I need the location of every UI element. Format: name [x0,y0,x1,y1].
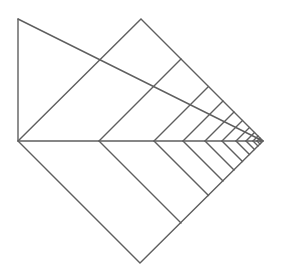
diagram-canvas [0,0,281,274]
chevron-upper-line [183,101,223,141]
chevron-lower-line [154,141,209,196]
converging-diamond-diagram [0,0,281,274]
chevron-upper-line [205,112,234,141]
chevron-upper-line [99,59,181,141]
outline-group [18,19,263,263]
chevron-lower-line [246,141,255,150]
chevron-lower-line [99,141,181,223]
chevron-lower-line [205,141,234,170]
diagonal-line [18,19,263,141]
chevron-upper-line [154,87,209,142]
chevron-lower-line [183,141,223,181]
